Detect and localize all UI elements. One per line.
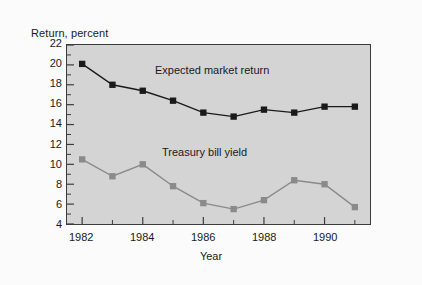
x-axis-title: Year: [0, 250, 422, 262]
chart-figure: Return, percent 46810121416182022 198219…: [0, 0, 422, 285]
x-axis-tick-label: 1990: [305, 231, 345, 243]
x-axis-tick-label: 1986: [183, 231, 223, 243]
x-axis-tick-label: 1982: [61, 231, 101, 243]
series-label-expected-market-return: Expected market return: [155, 64, 269, 76]
x-axis-tick-label: 1984: [122, 231, 162, 243]
x-axis-tick-label: 1988: [244, 231, 284, 243]
x-axis-tick-labels: 19821984198619881990: [0, 0, 422, 285]
series-label-treasury-bill-yield: Treasury bill yield: [162, 146, 247, 158]
